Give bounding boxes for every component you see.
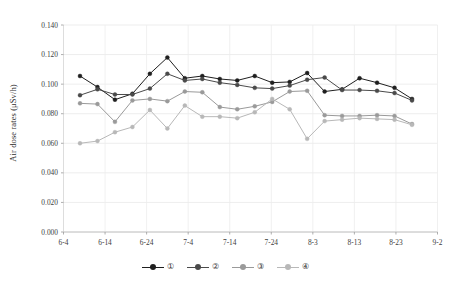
data-point (78, 141, 82, 145)
data-point (358, 116, 362, 120)
legend-item-1[interactable]: ① (142, 263, 174, 272)
data-point (305, 89, 309, 93)
data-point (235, 78, 239, 82)
x-tick-label: 6-14 (98, 238, 112, 247)
data-point (78, 101, 82, 105)
x-tick-label: 6-4 (59, 238, 69, 247)
data-point (375, 117, 379, 121)
data-point (340, 88, 344, 92)
data-point (393, 118, 397, 122)
data-point (218, 105, 222, 109)
y-tick-label: 0.080 (41, 109, 58, 118)
data-point (288, 107, 292, 111)
y-tick-label: 0.000 (41, 228, 58, 237)
legend-item-4[interactable]: ④ (277, 263, 309, 272)
data-point (148, 97, 152, 101)
data-point (165, 56, 169, 60)
x-tick-label: 7-4 (183, 238, 193, 247)
legend-marker-dot (285, 264, 291, 270)
legend-label: ② (212, 263, 219, 271)
data-point (410, 98, 414, 102)
data-point (113, 130, 117, 134)
data-point (148, 108, 152, 112)
data-point (410, 123, 414, 127)
y-tick-label: 0.040 (41, 168, 58, 177)
data-point (323, 90, 327, 94)
legend-swatch-icon (142, 263, 164, 272)
horizontal-gridlines (64, 25, 438, 232)
data-point (130, 98, 134, 102)
y-tick-label: 0.060 (41, 139, 58, 148)
data-point (200, 90, 204, 94)
data-point (358, 88, 362, 92)
data-point (165, 127, 169, 131)
data-point (305, 137, 309, 141)
data-point (288, 84, 292, 88)
data-point (235, 107, 239, 111)
legend-marker-dot (150, 264, 156, 270)
data-point (183, 78, 187, 82)
data-point (95, 102, 99, 106)
x-tick-label: 7-24 (264, 238, 278, 247)
data-point (113, 120, 117, 124)
data-point (130, 125, 134, 129)
data-point (305, 71, 309, 75)
data-series-layer (78, 56, 414, 146)
data-point (183, 90, 187, 94)
legend-swatch-icon (232, 263, 254, 272)
vertical-gridlines (64, 25, 438, 232)
data-point (218, 77, 222, 81)
data-point (235, 83, 239, 87)
data-point (358, 76, 362, 80)
data-point (323, 75, 327, 79)
legend-label: ④ (302, 263, 309, 271)
data-point (95, 87, 99, 91)
legend-marker-dot (240, 264, 246, 270)
x-tick-label: 8-3 (308, 238, 318, 247)
data-series (78, 72, 414, 103)
data-point (323, 113, 327, 117)
data-point (78, 93, 82, 97)
data-point (305, 78, 309, 82)
data-point (113, 92, 117, 96)
data-point (130, 92, 134, 96)
legend-item-3[interactable]: ③ (232, 263, 264, 272)
x-tick-label: 6-24 (140, 238, 154, 247)
legend-label: ③ (257, 263, 264, 271)
x-tick-label: 7-14 (223, 238, 237, 247)
legend-marker-dot (195, 264, 201, 270)
data-point (288, 80, 292, 84)
data-point (165, 72, 169, 76)
y-tick-label: 0.140 (41, 21, 58, 30)
data-point (78, 74, 82, 78)
data-point (253, 86, 257, 90)
data-point (393, 91, 397, 95)
y-tick-label: 0.100 (41, 80, 58, 89)
data-point (148, 87, 152, 91)
legend-swatch-icon (187, 263, 209, 272)
data-point (235, 116, 239, 120)
data-point (288, 90, 292, 94)
data-point (270, 87, 274, 91)
chart-figure: 0.0000.0200.0400.0600.0800.1000.1200.140… (0, 0, 451, 281)
data-point (340, 118, 344, 122)
data-point (323, 119, 327, 123)
axis-lines (61, 25, 438, 235)
data-series (78, 97, 414, 145)
legend-label: ① (167, 263, 174, 271)
data-point (393, 86, 397, 90)
data-point (253, 110, 257, 114)
data-point (270, 81, 274, 85)
x-tick-label: 8-23 (389, 238, 403, 247)
chart-legend: ①②③④ (0, 256, 451, 278)
data-point (340, 114, 344, 118)
legend-item-2[interactable]: ② (187, 263, 219, 272)
data-point (183, 104, 187, 108)
x-tick-label: 8-13 (348, 238, 362, 247)
data-point (253, 104, 257, 108)
data-point (95, 139, 99, 143)
data-point (200, 115, 204, 119)
data-point (148, 72, 152, 76)
line-chart-plot: 0.0000.0200.0400.0600.0800.1000.1200.140… (0, 0, 451, 281)
y-tick-label: 0.120 (41, 50, 58, 59)
